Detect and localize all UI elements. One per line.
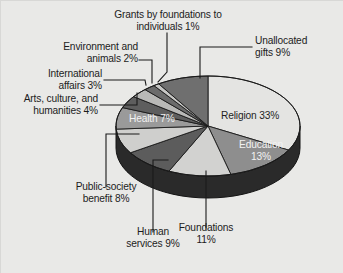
label-unallocated-gifts: Unallocated gifts 9% [255, 35, 343, 58]
label-international-affairs: International affairs 3% [6, 68, 102, 91]
leader-line-international [104, 80, 146, 85]
label-grants-to-individuals: Grants by foundations to individuals 1% [93, 9, 243, 32]
label-education: Education 13% [228, 139, 294, 162]
leader-line-grants [158, 33, 167, 82]
label-arts-culture-humanities: Arts, culture, and humanities 4% [0, 93, 98, 116]
label-health: Health 7% [129, 113, 197, 125]
label-public-society-benefit: Public-society benefit 8% [46, 181, 166, 204]
label-religion: Religion 33% [221, 110, 301, 122]
label-foundations: Foundations 11% [168, 222, 244, 245]
pie-chart-figure: Grants by foundations to individuals 1% … [0, 0, 343, 273]
label-environment-animals: Environment and animals 2% [24, 41, 138, 64]
leader-line-unallocated [200, 47, 252, 78]
